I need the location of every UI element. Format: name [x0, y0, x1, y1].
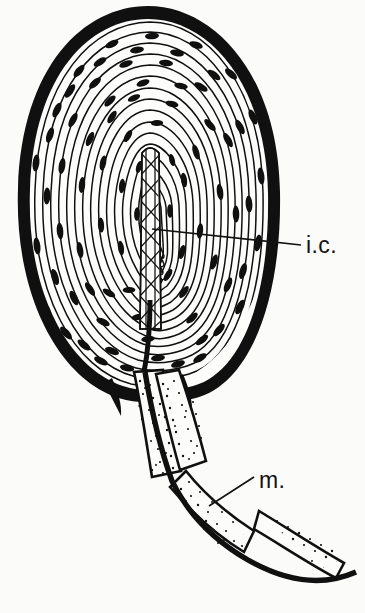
myelin-internode-3 — [170, 471, 254, 552]
label-myelin: m. — [259, 467, 285, 493]
pacinian-corpuscle-figure: i.c. m. — [0, 0, 365, 613]
nerve-fiber — [134, 370, 356, 580]
leader-line-myelin — [209, 477, 254, 506]
label-inner-core: i.c. — [306, 232, 337, 258]
figure-canvas: i.c. m. — [0, 0, 365, 613]
